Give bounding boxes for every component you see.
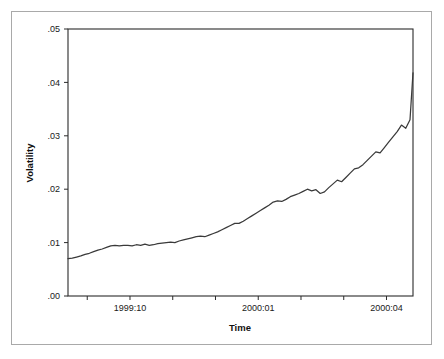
y-axis-tick-labels: .00.01.02.03.04.05 — [47, 24, 60, 301]
x-tick-label: 1999:10 — [114, 303, 147, 313]
y-tick-label: .05 — [47, 24, 60, 34]
y-tick-label: .02 — [47, 184, 60, 194]
x-tick-label: 2000:04 — [370, 303, 403, 313]
y-axis-ticks — [64, 29, 68, 296]
x-axis-ticks — [87, 296, 386, 300]
x-axis-title: Time — [229, 322, 251, 333]
plot-area-border — [68, 29, 413, 296]
y-tick-label: .01 — [47, 238, 60, 248]
figure-container: .00.01.02.03.04.05 1999:102000:012000:04… — [0, 0, 444, 359]
y-tick-label: .03 — [47, 131, 60, 141]
volatility-line-chart: .00.01.02.03.04.05 1999:102000:012000:04… — [0, 0, 444, 359]
x-tick-label: 2000:01 — [242, 303, 275, 313]
y-tick-label: .04 — [47, 78, 60, 88]
x-axis-tick-labels: 1999:102000:012000:04 — [114, 303, 403, 313]
y-axis-title: Volatility — [24, 143, 35, 183]
y-tick-label: .00 — [47, 291, 60, 301]
